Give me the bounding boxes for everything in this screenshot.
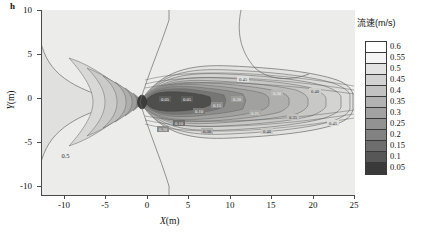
svg-text:0.05: 0.05 [161,97,170,102]
y-axis-spine [41,10,42,195]
colorbar-cell [366,152,386,163]
colorbar-cell [366,53,386,64]
svg-text:0.10: 0.10 [195,109,204,114]
x-tick-label: 5 [173,201,203,210]
colorbar-tick-labels: 0.60.550.50.450.40.350.30.250.20.150.10.… [390,41,423,173]
svg-text:0.20: 0.20 [159,127,168,132]
colorbar-level-label: 0.1 [390,151,423,162]
colorbar-swatches [365,41,387,175]
svg-text:0.30: 0.30 [203,129,212,134]
colorbar-cell [366,42,386,53]
colorbar-level-label: 0.5 [390,63,423,74]
colorbar-level-label: 0.3 [390,107,423,118]
x-tick-label: 10 [215,201,245,210]
svg-text:0.45: 0.45 [329,121,338,126]
colorbar-title: 流速(m/s) [357,16,423,29]
y-tick-label: 5 [6,50,32,59]
x-axis-title: X(m) [160,216,180,226]
x-tick-label: -10 [49,201,79,210]
colorbar-level-label: 0.4 [390,85,423,96]
y-tick-label: -5 [6,138,32,147]
colorbar-cell [366,119,386,130]
svg-text:0.25: 0.25 [251,111,260,116]
y-axis-title-var: Y [6,104,16,109]
x-axis-spine [41,195,355,196]
obstacle-body [138,95,147,109]
y-tick-label: 10 [6,6,32,15]
x-tick-label: 20 [298,201,328,210]
colorbar-cell [366,64,386,75]
colorbar-cell [366,163,386,174]
colorbar-level-label: 0.6 [390,41,423,52]
svg-text:0.40: 0.40 [263,129,272,134]
x-tick-label: -5 [90,201,120,210]
svg-text:0.40: 0.40 [311,89,320,94]
svg-text:0.45: 0.45 [239,77,248,82]
y-axis-title-unit: (m) [6,91,16,105]
colorbar-cell [366,97,386,108]
svg-text:0.5: 0.5 [61,152,69,159]
colorbar-legend: 流速(m/s) 0.60.550.50.450.40.350.30.250.20… [357,14,423,194]
contour-plot-svg: 0.5 0.05 0.05 0.10 0.15 0.20 0.25 0.30 0… [41,10,355,195]
svg-text:0.05: 0.05 [183,97,192,102]
y-axis-title: Y(m) [6,80,16,120]
x-axis-title-unit: (m) [166,216,180,226]
svg-text:0.15: 0.15 [213,103,222,108]
colorbar-level-label: 0.05 [390,162,423,173]
svg-text:0.10: 0.10 [175,121,184,126]
colorbar-cell [366,141,386,152]
x-tick-label: 15 [256,201,286,210]
svg-text:0.20: 0.20 [233,97,242,102]
inline-contour-label-0p5: 0.5 [58,151,73,159]
x-tick-label: 0 [132,201,162,210]
colorbar-cell [366,75,386,86]
colorbar-level-label: 0.2 [390,129,423,140]
y-tick-label: -10 [6,182,32,191]
colorbar-level-label: 0.55 [390,52,423,63]
plot-area: 0.5 0.05 0.05 0.10 0.15 0.20 0.25 0.30 0… [41,10,355,195]
x-tick-label: 25 [339,201,369,210]
colorbar-level-label: 0.15 [390,140,423,151]
colorbar-level-label: 0.25 [390,118,423,129]
colorbar-level-label: 0.35 [390,96,423,107]
contour-figure: h [0,0,424,240]
svg-text:0.35: 0.35 [289,115,298,120]
colorbar-cell [366,86,386,97]
colorbar-level-label: 0.45 [390,74,423,85]
svg-text:0.30: 0.30 [273,91,282,96]
colorbar-cell [366,130,386,141]
colorbar-cell [366,108,386,119]
